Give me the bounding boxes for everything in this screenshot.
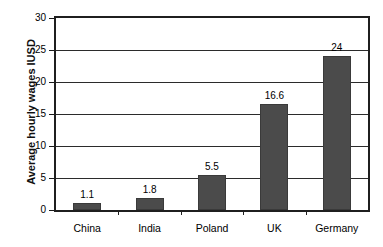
y-tick-label: 15 <box>22 109 46 119</box>
bar-slot: 16.6 <box>243 18 305 210</box>
y-tick-label: 30 <box>22 13 46 23</box>
bar-slot: 1.8 <box>118 18 180 210</box>
bar-chart-figure: Average hourly wages IUSD 051015202530 1… <box>0 0 383 247</box>
bar[interactable] <box>323 56 351 210</box>
x-tick-mark <box>118 210 119 215</box>
bar-value-label: 24 <box>331 42 342 53</box>
bar[interactable] <box>260 104 288 210</box>
bar-value-label: 16.6 <box>265 90 284 101</box>
bar[interactable] <box>73 203 101 210</box>
bar-value-label: 5.5 <box>205 161 219 172</box>
y-tick-label: 0 <box>22 205 46 215</box>
bar-slot: 1.1 <box>56 18 118 210</box>
bar[interactable] <box>136 198 164 210</box>
x-tick-label: UK <box>243 222 305 235</box>
x-tick-mark <box>306 210 307 215</box>
y-tick-label: 20 <box>22 77 46 87</box>
x-tick-label: Poland <box>181 222 243 235</box>
y-tick-label: 5 <box>22 173 46 183</box>
x-axis-tick-labels: ChinaIndiaPolandUKGermany <box>54 222 370 238</box>
bar-slot: 5.5 <box>181 18 243 210</box>
x-tick-label: Germany <box>306 222 368 235</box>
bar-value-label: 1.1 <box>80 189 94 200</box>
x-tick-label: India <box>118 222 180 235</box>
bars-layer: 1.11.85.516.624 <box>56 18 368 210</box>
plot-area: 1.11.85.516.624 <box>54 16 370 212</box>
y-axis-tick-labels: 051015202530 <box>22 10 46 218</box>
bar-slot: 24 <box>306 18 368 210</box>
y-tick-label: 10 <box>22 141 46 151</box>
bar[interactable] <box>198 175 226 210</box>
x-tick-mark <box>243 210 244 215</box>
x-tick-mark <box>181 210 182 215</box>
y-tick-label: 25 <box>22 45 46 55</box>
x-tick-label: China <box>56 222 118 235</box>
bar-value-label: 1.8 <box>143 184 157 195</box>
